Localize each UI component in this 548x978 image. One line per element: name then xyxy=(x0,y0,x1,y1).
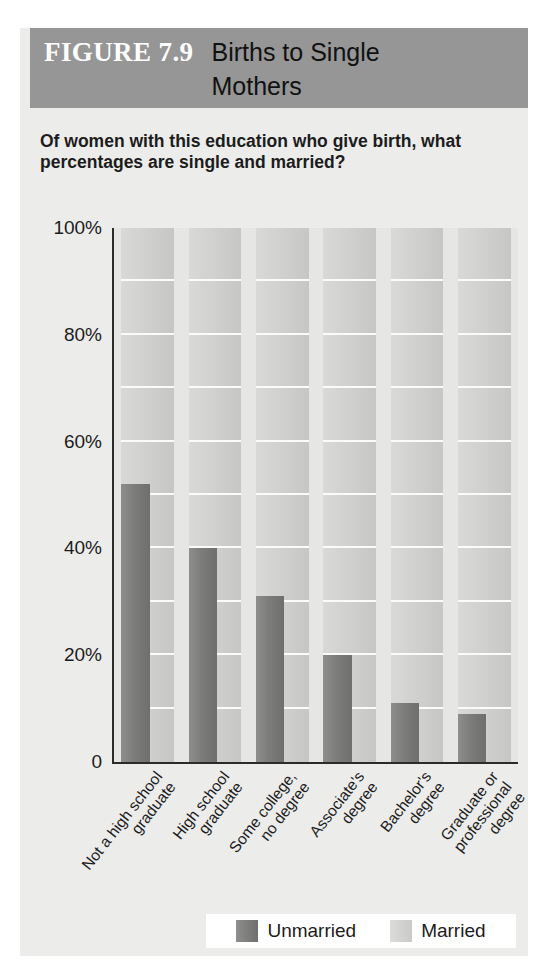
gridline xyxy=(391,440,444,442)
y-axis-tick-label: 0 xyxy=(32,751,102,773)
bar-unmarried[interactable] xyxy=(391,703,419,762)
bar-married[interactable] xyxy=(458,228,511,762)
gridline xyxy=(458,653,511,655)
gridline xyxy=(458,546,511,548)
figure-container: FIGURE 7.9 Births to Single Mothers Of w… xyxy=(20,28,528,956)
gridline xyxy=(458,279,511,281)
gridline xyxy=(458,600,511,602)
figure-header-band: FIGURE 7.9 Births to Single Mothers xyxy=(30,28,528,108)
figure-subtitle: Of women with this education who give bi… xyxy=(40,131,510,173)
gridline xyxy=(189,333,242,335)
gridline xyxy=(458,707,511,709)
gridline xyxy=(391,279,444,281)
bar-group xyxy=(189,228,242,762)
legend-label: Married xyxy=(421,920,485,942)
gridline xyxy=(458,386,511,388)
gridline xyxy=(121,440,174,442)
y-axis-tick-label: 100% xyxy=(32,217,102,239)
legend-label: Unmarried xyxy=(267,920,356,942)
gridline xyxy=(323,600,376,602)
gridline xyxy=(458,493,511,495)
bar-group xyxy=(256,228,309,762)
gridline xyxy=(391,386,444,388)
gridline xyxy=(256,546,309,548)
legend-entry[interactable]: Unmarried xyxy=(236,920,356,942)
gridline xyxy=(121,386,174,388)
y-axis-labels: 020%40%60%80%100% xyxy=(20,228,102,762)
plot-area xyxy=(112,228,518,764)
legend-entry[interactable]: Married xyxy=(390,920,485,942)
gridline xyxy=(256,493,309,495)
gridline xyxy=(323,493,376,495)
y-axis-tick-label: 60% xyxy=(32,431,102,453)
bar-group xyxy=(458,228,511,762)
legend-swatch-married xyxy=(390,920,412,942)
bar-group xyxy=(391,228,444,762)
gridline xyxy=(121,333,174,335)
gridline xyxy=(121,279,174,281)
gridline xyxy=(256,440,309,442)
gridline xyxy=(323,546,376,548)
gridline xyxy=(189,279,242,281)
bar-unmarried[interactable] xyxy=(121,484,149,762)
gridline xyxy=(189,493,242,495)
bar-unmarried[interactable] xyxy=(189,548,217,762)
gridline xyxy=(189,440,242,442)
gridline xyxy=(323,333,376,335)
bar-group xyxy=(323,228,376,762)
x-axis-labels: Not a high schoolgraduateHigh schoolgrad… xyxy=(112,768,522,938)
figure-number-label: FIGURE 7.9 xyxy=(44,35,194,69)
gridline xyxy=(256,333,309,335)
bar-married[interactable] xyxy=(391,228,444,762)
chart-legend: UnmarriedMarried xyxy=(206,914,516,948)
gridline xyxy=(323,386,376,388)
figure-title: Births to Single Mothers xyxy=(212,35,462,103)
gridline xyxy=(189,386,242,388)
bar-unmarried[interactable] xyxy=(256,596,284,762)
bar-unmarried[interactable] xyxy=(458,714,486,762)
y-axis-tick-label: 80% xyxy=(32,324,102,346)
bar-unmarried[interactable] xyxy=(323,655,351,762)
gridline xyxy=(391,333,444,335)
gridline xyxy=(256,279,309,281)
y-axis-tick-label: 40% xyxy=(32,537,102,559)
bar-group xyxy=(121,228,174,762)
gridline xyxy=(458,440,511,442)
y-axis-tick-label: 20% xyxy=(32,644,102,666)
legend-swatch-unmarried xyxy=(236,920,258,942)
gridline xyxy=(391,546,444,548)
gridline xyxy=(256,386,309,388)
gridline xyxy=(391,493,444,495)
gridline xyxy=(391,600,444,602)
gridline xyxy=(391,653,444,655)
gridline xyxy=(323,279,376,281)
gridline xyxy=(323,440,376,442)
gridline xyxy=(458,333,511,335)
